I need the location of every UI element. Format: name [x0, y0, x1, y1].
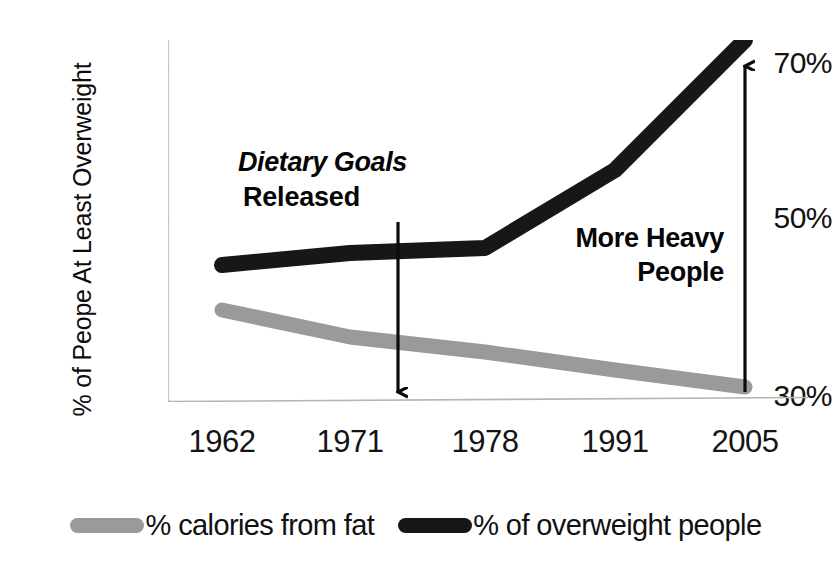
x-tick-label-1971: 1971	[285, 424, 415, 460]
annotation-more-heavy: More Heavy	[524, 222, 724, 255]
legend-item-overweight-people[interactable]: % of overweight people	[398, 509, 761, 542]
x-tick-label-1978: 1978	[420, 424, 550, 460]
annotation-dietary-goals: Dietary Goals	[238, 146, 407, 179]
legend-swatch-overweight-people	[398, 518, 472, 533]
legend-label-calories-from-fat: % calories from fat	[144, 509, 374, 542]
annotation-dietary-released: Released	[243, 181, 360, 214]
legend-item-calories-from-fat[interactable]: % calories from fat	[70, 509, 374, 542]
legend-swatch-calories-from-fat	[70, 518, 144, 533]
legend-label-overweight-people: % of overweight people	[472, 509, 761, 542]
chart-figure: % of Peope At Least Overweight 70% 50% 3…	[0, 0, 832, 570]
plot-canvas	[168, 40, 808, 402]
x-tick-label-1962: 1962	[157, 424, 287, 460]
y-axis-title: % of Peope At Least Overweight	[68, 10, 97, 470]
x-tick-label-2005: 2005	[680, 424, 810, 460]
chart-legend: % calories from fat % of overweight peop…	[0, 498, 832, 552]
plot-area	[168, 40, 808, 402]
annotation-more-heavy-people: People	[524, 256, 724, 289]
x-axis-tick-labels: 1962 1971 1978 1991 2005	[168, 424, 808, 468]
x-tick-label-1991: 1991	[550, 424, 680, 460]
x-axis-line	[168, 398, 808, 402]
series-line-calories-from-fat	[222, 310, 745, 387]
